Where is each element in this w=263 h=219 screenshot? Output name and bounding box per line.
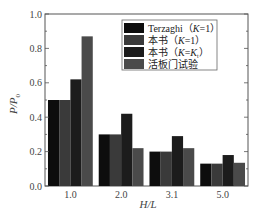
bar [161,152,172,186]
bar [211,164,222,186]
legend-label: 本书（K=1） [148,34,205,46]
legend-label: 活板门试验 [148,58,198,70]
legend: Terzaghi（K=1）本书（K=1）本书（K=Kt）活板门试验 [122,20,220,70]
legend-swatch [124,23,144,33]
bar [149,152,160,186]
x-tick-label: 3.1 [166,189,179,200]
bar [172,136,183,186]
legend-swatch [124,35,144,45]
bar [48,100,59,186]
y-tick-label: 0.6 [30,77,43,88]
x-tick-label: 5.0 [216,189,229,200]
legend-label: 本书（K=Kt） [148,46,209,59]
legend-label: Terzaghi（K=1） [148,23,220,34]
y-axis-label: P/P0 [7,94,22,116]
bar [110,134,121,186]
bar [223,155,234,186]
bar [132,148,143,186]
legend-swatch [124,47,144,57]
y-tick-label: 0.8 [30,43,43,54]
x-tick-label: 2.0 [115,189,128,200]
bar-chart: 0.00.20.40.60.81.0 1.02.03.15.0 H/L P/P0… [0,0,263,219]
bar [70,79,81,186]
y-tick-label: 0.2 [30,146,43,157]
y-tick-label: 0.4 [30,112,43,123]
bar [99,134,110,186]
y-tick-label: 1.0 [30,9,43,20]
legend-swatch [124,59,144,69]
bar [234,163,245,186]
x-tick-label: 1.0 [64,189,77,200]
x-axis-label: H/L [138,198,156,210]
bar [82,36,93,186]
y-tick-label: 0.0 [30,181,43,192]
bar [183,148,194,186]
bar [121,114,132,186]
bar [59,100,70,186]
bar [200,164,211,186]
